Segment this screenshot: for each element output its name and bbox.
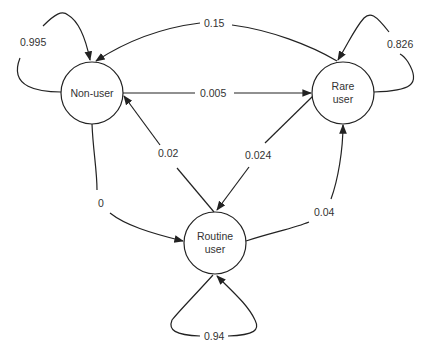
edge-routine-to-rare [246, 222, 309, 241]
node-label-non-user: Non-user [70, 87, 114, 99]
edge-rare-self [374, 54, 414, 92]
node-label-rare-line2: user [333, 93, 354, 105]
edge-rare-to-non-user [96, 23, 200, 61]
node-rare-user: Rare user [312, 62, 374, 124]
label-0-04: 0.04 [314, 206, 335, 218]
node-label-rare-line1: Rare [332, 80, 355, 92]
label-0-995: 0.995 [20, 36, 46, 48]
label-0: 0 [98, 197, 104, 209]
node-routine-user: Routine user [184, 212, 246, 274]
node-label-routine-line2: user [205, 243, 226, 255]
edge-non-user-to-routine [92, 124, 97, 190]
label-0-02: 0.02 [158, 147, 179, 159]
label-0-024: 0.024 [245, 149, 271, 161]
label-0-005: 0.005 [200, 87, 226, 99]
label-0-826: 0.826 [387, 38, 413, 50]
edge-routine-self [171, 275, 213, 336]
edge-rare-to-routine [265, 96, 313, 143]
edge-non-user-self [17, 58, 61, 92]
node-non-user: Non-user [61, 62, 123, 124]
label-0-15: 0.15 [204, 17, 225, 29]
label-0-94: 0.94 [204, 330, 225, 342]
state-diagram: 0.995 0.15 0.826 0.005 0.02 0.024 0 0.04… [0, 0, 432, 349]
node-label-routine-line1: Routine [197, 230, 233, 242]
edge-routine-to-non-user [177, 168, 214, 212]
